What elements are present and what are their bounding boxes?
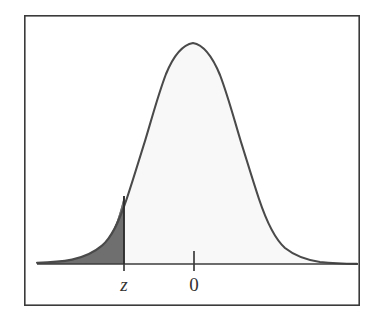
zero-axis-label: 0 xyxy=(189,274,199,295)
z-axis-label: z xyxy=(119,274,128,295)
distribution-chart-svg: z 0 xyxy=(0,0,384,323)
normal-distribution-figure: z 0 xyxy=(0,0,384,323)
